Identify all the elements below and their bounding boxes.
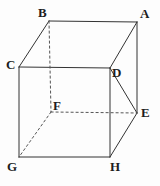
vertex-label-g: G [7,160,17,173]
vertex-label-a: A [140,7,150,20]
vertex-label-h: H [110,160,120,173]
edge-FE [51,112,137,113]
solid-edge-group [19,21,137,157]
edge-BA [49,21,137,22]
vertex-label-b: B [38,6,47,19]
cube-figure: ABCDEFGH [0,0,160,186]
vertex-label-d: D [112,66,122,79]
edge-BC [19,21,49,67]
vertex-label-f: F [53,99,61,112]
edge-HE [110,113,137,157]
edge-BF [49,21,51,112]
cube-wireframe [0,0,160,186]
edge-FG [19,112,51,157]
hidden-edge-group [19,21,137,157]
vertex-label-c: C [6,58,16,71]
edge-CD [19,67,110,68]
edge-AD [110,22,137,68]
vertex-label-e: E [141,106,150,119]
